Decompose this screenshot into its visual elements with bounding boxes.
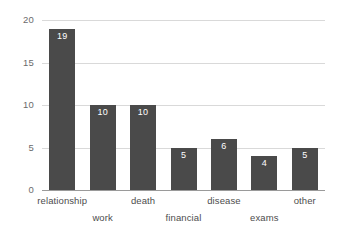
x-axis-label-exams: exams: [220, 212, 309, 223]
x-axis-label-relationship: relationship: [18, 195, 107, 206]
x-axis-label-work: work: [58, 212, 147, 223]
bar-work[interactable]: 10: [90, 105, 116, 190]
bar-value-label: 6: [211, 141, 237, 151]
bar-disease[interactable]: 6: [211, 139, 237, 190]
bar-value-label: 10: [90, 107, 116, 117]
plot-area: 1910105645: [42, 20, 325, 190]
x-axis-label-death: death: [99, 195, 188, 206]
bar-chart: 20 15 10 5 0 1910105645 relationshipwork…: [0, 0, 339, 241]
bar-value-label: 19: [49, 31, 75, 41]
bar-value-label: 10: [130, 107, 156, 117]
bar-relationship[interactable]: 19: [49, 29, 75, 191]
bar-financial[interactable]: 5: [171, 148, 197, 191]
x-axis-category-labels: relationshipworkdeathfinancialdiseaseexa…: [42, 191, 325, 239]
bar-exams[interactable]: 4: [251, 156, 277, 190]
x-axis-label-disease: disease: [179, 195, 268, 206]
bar-value-label: 5: [292, 150, 318, 160]
bar-death[interactable]: 10: [130, 105, 156, 190]
y-axis-tick-label: 15: [0, 57, 34, 68]
y-axis-tick-label: 5: [0, 142, 34, 153]
bar-value-label: 5: [171, 150, 197, 160]
bar-other[interactable]: 5: [292, 148, 318, 191]
x-axis-label-other: other: [260, 195, 339, 206]
y-axis-tick-label: 10: [0, 99, 34, 110]
y-axis-tick-label: 20: [0, 14, 34, 25]
x-axis-label-financial: financial: [139, 212, 228, 223]
bar-value-label: 4: [251, 158, 277, 168]
bar-series: 1910105645: [42, 20, 325, 190]
y-axis-tick-label: 0: [0, 184, 34, 195]
